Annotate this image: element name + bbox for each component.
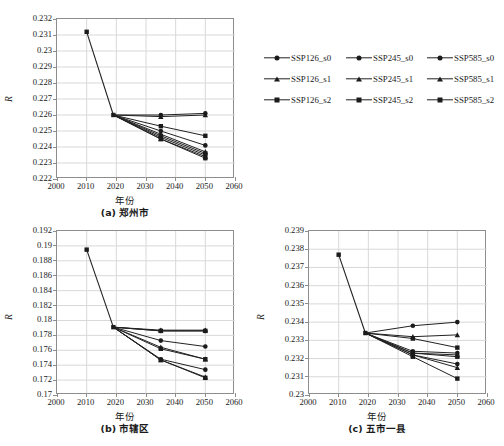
- legend-item-ssp126_s2[interactable]: SSP126_s2: [264, 95, 331, 105]
- legend-marker-circle-icon: [427, 53, 453, 63]
- x-tick-label: 2040: [166, 398, 183, 407]
- y-tick-label: 0.231: [33, 30, 52, 39]
- legend-item-ssp585_s2[interactable]: SSP585_s2: [427, 95, 494, 105]
- legend-label: SSP126_s0: [291, 53, 331, 63]
- y-tick-mark: [305, 231, 309, 232]
- x-tick-label: 2000: [299, 398, 316, 407]
- legend-marker-circle-icon: [264, 53, 290, 63]
- y-tick-label: 0.188: [33, 256, 52, 265]
- x-tick-label: 2000: [47, 398, 64, 407]
- legend-item-ssp245_s1[interactable]: SSP245_s1: [346, 74, 413, 84]
- x-tick-label: 2060: [477, 398, 494, 407]
- legend-label: SSP585_s1: [454, 74, 494, 84]
- y-tick-mark: [53, 305, 57, 306]
- panel-c-canvas: [309, 231, 487, 395]
- y-tick-label: 0.227: [33, 94, 52, 103]
- legend-marker-square-icon: [346, 95, 372, 105]
- x-tick-label: 2050: [196, 182, 213, 191]
- y-tick-label: 0.231: [285, 371, 304, 380]
- y-tick-label: 0.226: [33, 110, 52, 119]
- y-tick-label: 0.238: [285, 244, 304, 253]
- x-tick-label: 2060: [225, 398, 242, 407]
- panel-a-y-ticks: 0.2320.2310.230.2290.2280.2270.2260.2250…: [14, 18, 52, 178]
- x-tick-label: 2020: [107, 182, 124, 191]
- panel-a: R 0.2320.2310.230.2290.2280.2270.2260.22…: [0, 4, 250, 214]
- y-tick-mark: [53, 335, 57, 336]
- legend-item-ssp126_s1[interactable]: SSP126_s1: [264, 74, 331, 84]
- panel-b-y-ticks: 0.1920.190.1880.1860.1840.1820.180.1780.…: [14, 230, 52, 394]
- y-tick-label: 0.178: [33, 330, 52, 339]
- x-tick-label: 2030: [136, 182, 153, 191]
- panel-b-caption: (b) 市辖区: [0, 421, 250, 435]
- y-tick-label: 0.172: [33, 375, 52, 384]
- y-tick-mark: [305, 285, 309, 286]
- y-tick-mark: [53, 115, 57, 116]
- panel-a-plot-area: [56, 18, 234, 178]
- legend-label: SSP126_s2: [291, 95, 331, 105]
- y-tick-mark: [305, 249, 309, 250]
- y-tick-label: 0.233: [285, 335, 304, 344]
- y-tick-label: 0.224: [33, 142, 52, 151]
- y-tick-mark: [305, 395, 309, 396]
- panel-b-canvas: [57, 231, 235, 395]
- x-tick-label: 2060: [225, 182, 242, 191]
- panel-c-y-ticks: 0.2390.2380.2370.2360.2350.2340.2330.232…: [266, 230, 304, 394]
- legend-item-ssp245_s2[interactable]: SSP245_s2: [346, 95, 413, 105]
- legend-item-ssp245_s0[interactable]: SSP245_s0: [346, 53, 413, 63]
- y-tick-label: 0.232: [33, 14, 52, 23]
- y-tick-label: 0.186: [33, 270, 52, 279]
- y-tick-label: 0.234: [285, 317, 304, 326]
- x-tick-label: 2030: [136, 398, 153, 407]
- legend-label: SSP585_s0: [454, 53, 494, 63]
- legend-label: SSP245_s0: [373, 53, 413, 63]
- legend-item-ssp126_s0[interactable]: SSP126_s0: [264, 53, 331, 63]
- y-tick-mark: [53, 131, 57, 132]
- y-tick-label: 0.237: [285, 262, 304, 271]
- y-tick-mark: [53, 245, 57, 246]
- y-tick-label: 0.19: [37, 241, 52, 250]
- panel-b-plot-area: [56, 230, 234, 394]
- y-tick-label: 0.239: [285, 226, 304, 235]
- y-tick-mark: [53, 380, 57, 381]
- y-tick-label: 0.223: [33, 158, 52, 167]
- y-tick-label: 0.23: [37, 46, 52, 55]
- y-tick-mark: [53, 260, 57, 261]
- x-tick-label: 2040: [418, 398, 435, 407]
- y-tick-mark: [305, 322, 309, 323]
- y-tick-mark: [53, 51, 57, 52]
- legend-marker-triangle-icon: [427, 74, 453, 84]
- y-tick-mark: [53, 350, 57, 351]
- y-tick-mark: [53, 320, 57, 321]
- y-tick-mark: [53, 163, 57, 164]
- y-tick-mark: [53, 395, 57, 396]
- y-tick-mark: [53, 231, 57, 232]
- y-tick-mark: [53, 35, 57, 36]
- y-tick-label: 0.225: [33, 126, 52, 135]
- panel-a-canvas: [57, 19, 235, 179]
- panel-a-y-title: R: [4, 89, 14, 109]
- legend-label: SSP245_s2: [373, 95, 413, 105]
- legend-marker-triangle-icon: [264, 74, 290, 84]
- y-tick-label: 0.182: [33, 300, 52, 309]
- y-tick-mark: [305, 267, 309, 268]
- legend-marker-square-icon: [264, 95, 290, 105]
- panel-a-caption: (a) 郑州市: [0, 205, 250, 219]
- x-tick-label: 2030: [388, 398, 405, 407]
- y-tick-label: 0.236: [285, 280, 304, 289]
- y-tick-label: 0.228: [33, 78, 52, 87]
- y-tick-mark: [53, 83, 57, 84]
- panel-c-caption: (c) 五市一县: [252, 421, 502, 435]
- y-tick-label: 0.235: [285, 299, 304, 308]
- y-tick-mark: [53, 275, 57, 276]
- legend-item-ssp585_s0[interactable]: SSP585_s0: [427, 53, 494, 63]
- x-tick-label: 2010: [77, 398, 94, 407]
- y-tick-label: 0.184: [33, 285, 52, 294]
- y-tick-mark: [53, 99, 57, 100]
- y-tick-mark: [53, 147, 57, 148]
- y-tick-label: 0.18: [37, 315, 52, 324]
- legend-item-ssp585_s1[interactable]: SSP585_s1: [427, 74, 494, 84]
- panel-c: R 0.2390.2380.2370.2360.2350.2340.2330.2…: [252, 222, 502, 442]
- legend-label: SSP585_s2: [454, 95, 494, 105]
- y-tick-label: 0.174: [33, 360, 52, 369]
- y-tick-mark: [53, 290, 57, 291]
